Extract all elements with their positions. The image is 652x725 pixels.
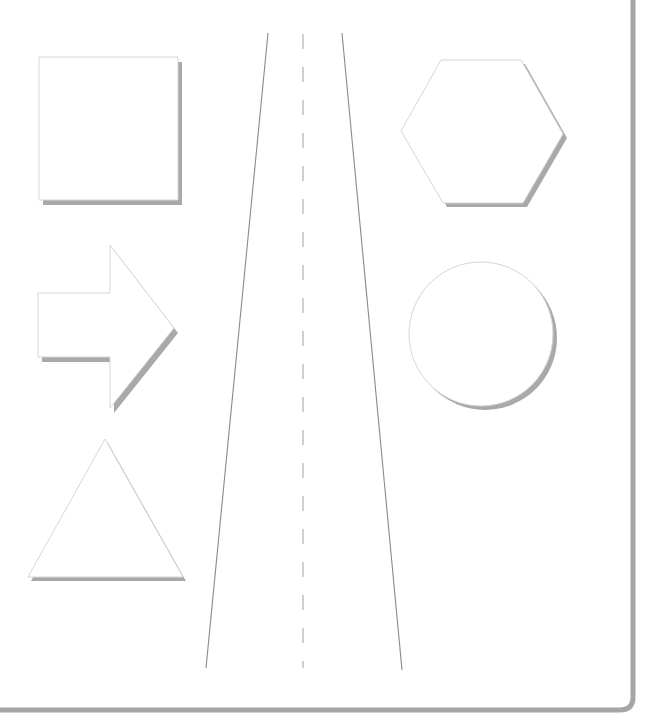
road-right-edge — [342, 33, 402, 670]
arrow-outline — [38, 245, 174, 408]
triangle-shape — [28, 439, 186, 581]
arrow-shape — [38, 245, 178, 413]
road-left-edge — [206, 33, 268, 668]
circle-shape — [409, 262, 557, 410]
worksheet-canvas — [0, 0, 652, 725]
triangle-outline — [28, 439, 183, 577]
hexagon-shape — [401, 60, 567, 207]
road — [206, 33, 402, 670]
shapes-group — [28, 57, 567, 581]
circle-outline — [409, 262, 553, 406]
square-shape — [39, 57, 182, 205]
square-outline — [39, 57, 178, 200]
